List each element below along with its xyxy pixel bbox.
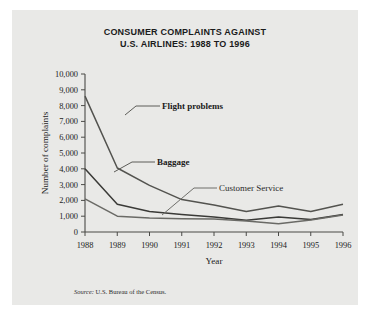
y-axis-tick-label: 9,000 <box>59 86 78 95</box>
baggage-leader-line <box>114 162 155 172</box>
source-note: Source: U.S. Bureau of the Census. <box>74 288 166 295</box>
y-axis-tick-label: 2,000 <box>59 196 78 205</box>
source-prefix: Source: <box>74 288 94 295</box>
y-axis-ticks: 01,0002,0003,0004,0005,0006,0007,0008,00… <box>55 70 85 237</box>
x-axis-tick-label: 1993 <box>238 241 255 250</box>
y-axis-tick-label: 0 <box>74 228 78 237</box>
y-axis-tick-label: 10,000 <box>55 70 78 79</box>
y-axis-title: Number of complaints <box>40 111 50 194</box>
series-label-customer-service: Customer Service <box>219 183 283 193</box>
line-chart: 01,0002,0003,0004,0005,0006,0007,0008,00… <box>12 10 358 305</box>
x-axis-tick-label: 1990 <box>141 241 158 250</box>
x-axis-tick-label: 1992 <box>206 241 223 250</box>
y-axis-tick-label: 8,000 <box>59 102 78 111</box>
y-axis-tick-label: 7,000 <box>59 117 78 126</box>
x-axis-tick-label: 1991 <box>173 241 190 250</box>
y-axis-tick-label: 5,000 <box>59 149 78 158</box>
x-axis-tick-label: 1994 <box>270 241 288 250</box>
series-line-flight-problems <box>85 96 343 211</box>
x-axis-tick-label: 1995 <box>302 241 319 250</box>
x-axis-tick-label: 1989 <box>109 241 126 250</box>
series-label-flight-problems: Flight problems <box>162 101 224 111</box>
figure-panel: CONSUMER COMPLAINTS AGAINST U.S. AIRLINE… <box>12 10 358 305</box>
x-axis-title: Year <box>206 256 223 266</box>
y-axis-tick-label: 1,000 <box>59 212 78 221</box>
series-label-baggage: Baggage <box>157 157 190 167</box>
series-line-baggage <box>85 169 343 220</box>
y-axis-tick-label: 6,000 <box>59 133 78 142</box>
x-axis-ticks: 198819891990199119921993199419951996 <box>77 232 352 250</box>
source-text: U.S. Bureau of the Census. <box>96 288 167 295</box>
y-axis-tick-label: 3,000 <box>59 181 78 190</box>
series-line-customer-service <box>85 199 343 224</box>
x-axis-tick-label: 1988 <box>77 241 94 250</box>
y-axis-tick-label: 4,000 <box>59 165 78 174</box>
series-lines <box>85 96 343 224</box>
x-axis-tick-label: 1996 <box>335 241 352 250</box>
flight-problems-leader-line <box>125 106 160 115</box>
